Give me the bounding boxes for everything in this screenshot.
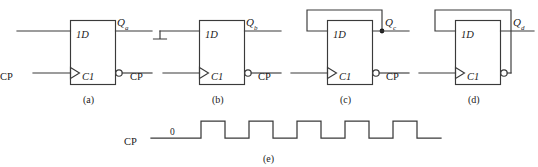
waveform-signal-label: CP [124, 136, 137, 147]
clock-input-label-b: CP [130, 71, 143, 82]
figure-d-flip-flop-variants: 1D C1 CP Qa (a) 1D C1 CP Qb (b) 1D C1 CP… [0, 0, 538, 167]
output-subscript-c: c [393, 24, 396, 32]
output-label-b: Q [246, 16, 254, 28]
inverting-bubble-icon-d [501, 70, 507, 76]
inverting-bubble-icon-b [245, 70, 251, 76]
inverting-bubble-icon-c [373, 70, 379, 76]
data-port-label-b: 1D [205, 29, 218, 40]
caption-e: (e) [263, 153, 274, 164]
caption-d: (d) [468, 94, 480, 105]
caption-b: (b) [212, 94, 224, 105]
clock-input-label-a: CP [0, 71, 13, 82]
output-subscript-b: b [254, 24, 258, 32]
output-subscript-a: a [125, 24, 129, 32]
clock-port-label-d: C1 [467, 71, 479, 82]
clock-waveform-e [151, 121, 441, 138]
data-port-label-a: 1D [76, 29, 89, 40]
clock-input-label-d: CP [386, 71, 399, 82]
data-port-label-d: 1D [461, 29, 474, 40]
caption-c: (c) [340, 94, 351, 105]
waveform-initial-level-label: 0 [170, 127, 175, 137]
ground-icon-b [154, 31, 167, 39]
output-subscript-d: d [521, 24, 525, 32]
output-label-a: Q [117, 16, 125, 28]
clock-port-label-c: C1 [339, 71, 351, 82]
clock-port-label-a: C1 [82, 71, 94, 82]
waveform-trace [151, 121, 441, 138]
output-label-d: Q [513, 16, 521, 28]
data-port-label-c: 1D [333, 29, 346, 40]
inverting-bubble-icon-a [116, 70, 122, 76]
clock-input-label-c: CP [258, 71, 271, 82]
clock-port-label-b: C1 [211, 71, 223, 82]
caption-a: (a) [83, 94, 94, 105]
output-label-c: Q [385, 16, 393, 28]
